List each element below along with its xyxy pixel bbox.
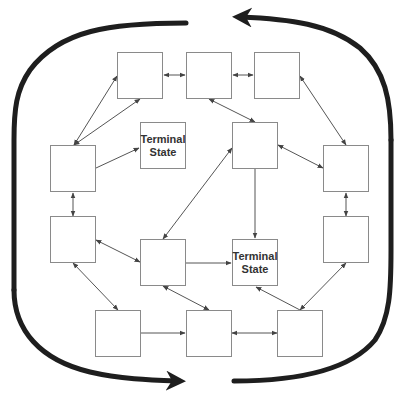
terminal-state-label-2: Terminal State (232, 250, 277, 276)
state-box-s5 (232, 122, 278, 169)
state-diagram: Terminal State Terminal State (0, 0, 402, 393)
terminal-state-box-2: Terminal State (232, 239, 278, 286)
state-box-s1 (117, 52, 163, 99)
state-box-s4 (50, 145, 96, 192)
transitions (73, 75, 346, 333)
state-box-s7 (50, 216, 96, 263)
state-box-s10 (95, 310, 141, 357)
terminal-state-box-1: Terminal State (140, 122, 186, 169)
state-box-s11 (186, 310, 232, 357)
state-box-s2 (186, 52, 232, 99)
state-box-s3 (254, 52, 300, 99)
state-box-s12 (277, 310, 323, 357)
state-box-s8 (140, 239, 186, 286)
state-box-s6 (323, 145, 369, 192)
state-box-s9 (323, 216, 369, 263)
terminal-state-label-1: Terminal State (140, 133, 185, 159)
